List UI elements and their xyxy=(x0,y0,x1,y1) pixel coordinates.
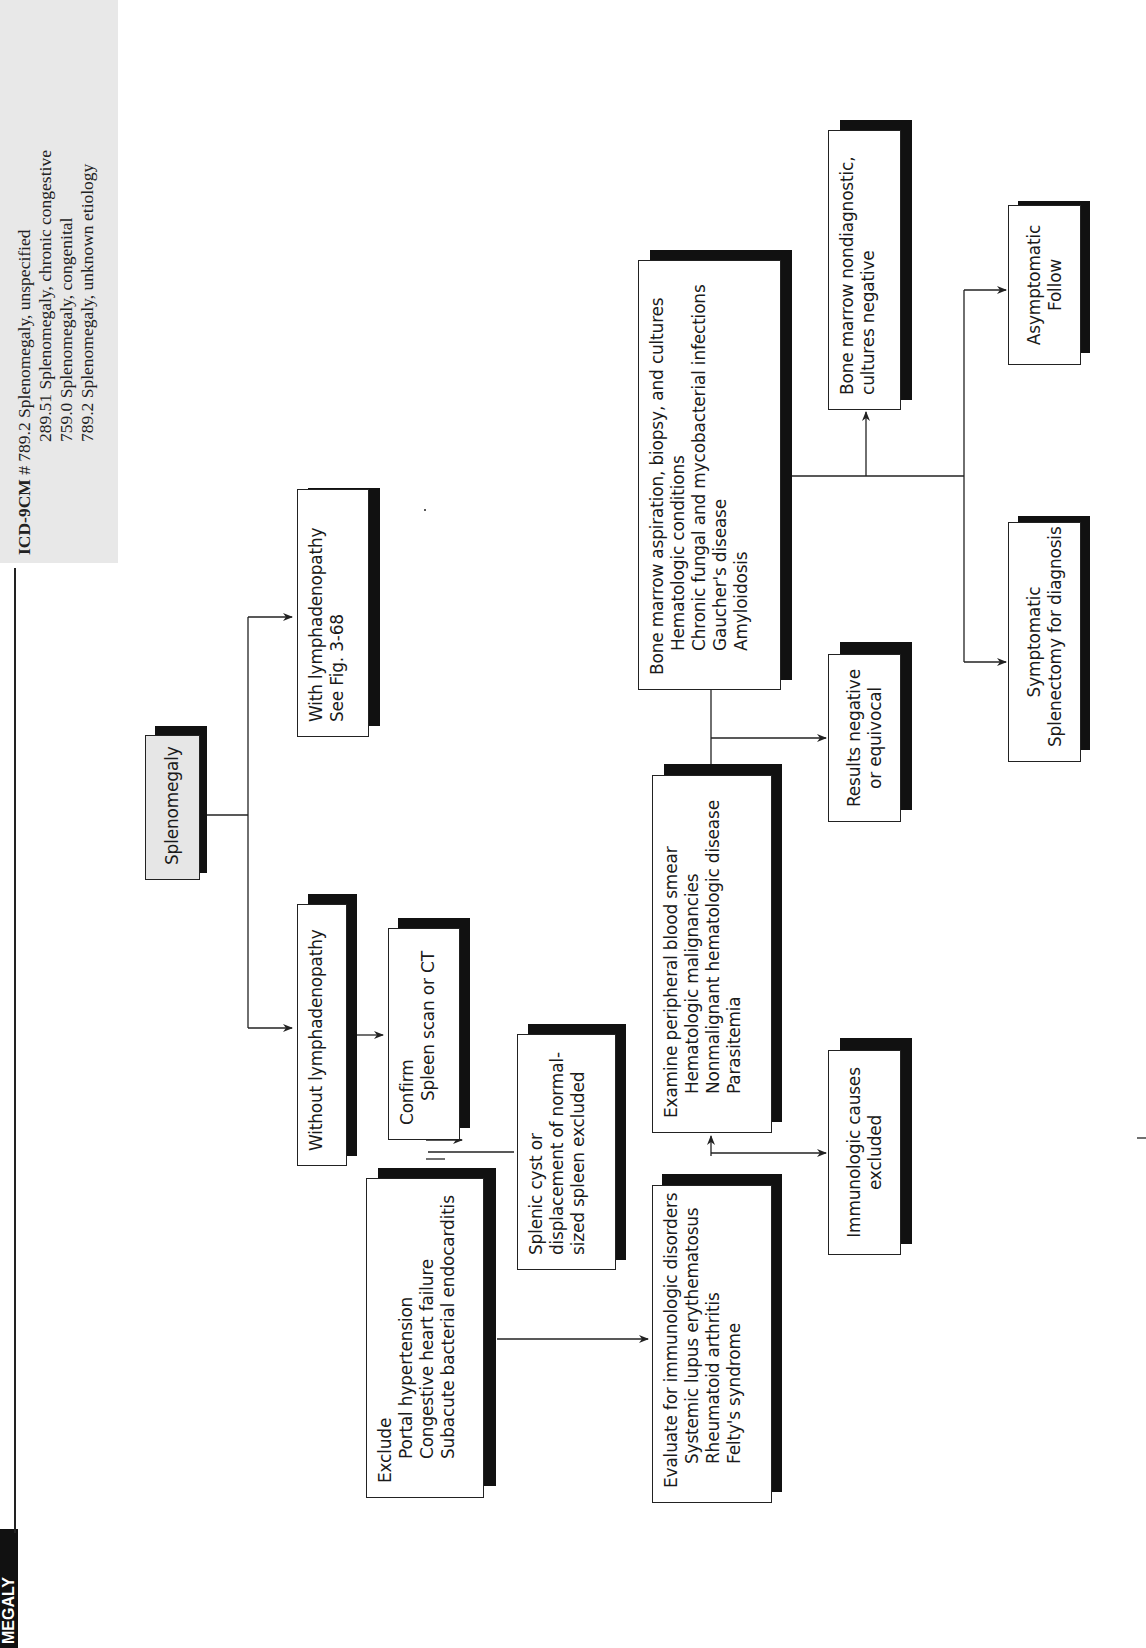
node-confirm[interactable]: Confirm Spleen scan or CT xyxy=(388,928,460,1140)
node-immunologic-excluded[interactable]: Immunologic causes excluded xyxy=(828,1050,901,1255)
node-peripheral-smear[interactable]: Examine peripheral blood smear Hematolog… xyxy=(652,775,772,1133)
exclude-title: Exclude xyxy=(375,1193,396,1483)
cyst-line-3: sized spleen excluded xyxy=(568,1049,589,1255)
immuno-excluded-line-2: excluded xyxy=(865,1065,886,1240)
exclude-item: Congestive heart failure xyxy=(417,1193,438,1483)
smear-item: Nonmalignant hematologic disease xyxy=(703,790,724,1118)
with-lymph-line-2: See Fig. 3-68 xyxy=(327,504,348,722)
without-lymph-line-1: Without lymphadenopathy xyxy=(306,919,327,1151)
node-bone-marrow[interactable]: Bone marrow aspiration, biopsy, and cult… xyxy=(638,260,781,690)
symptomatic-line-2: Splenectomy for diagnosis xyxy=(1045,537,1066,747)
node-exclude[interactable]: Exclude Portal hypertension Congestive h… xyxy=(366,1178,484,1498)
immuno-eval-title: Evaluate for immunologic disorders xyxy=(661,1200,682,1488)
marrow-item: Chronic fungal and mycobacterial infecti… xyxy=(689,275,710,675)
smear-item: Parasitemia xyxy=(724,790,745,1118)
root-node-splenomegaly[interactable]: Splenomegaly xyxy=(145,735,200,880)
asymptomatic-line-1: Asymptomatic xyxy=(1024,220,1045,350)
flowchart-page: MEGALY ICD-9CM # 789.2 Splenomegaly, uns… xyxy=(0,0,1146,1648)
immuno-eval-item: Felty's syndrome xyxy=(724,1200,745,1488)
cyst-line-1: Splenic cyst or xyxy=(526,1049,547,1255)
symptomatic-line-1: Symptomatic xyxy=(1024,537,1045,747)
node-symptomatic[interactable]: Symptomatic Splenectomy for diagnosis xyxy=(1008,522,1081,762)
confirm-line-2: Spleen scan or CT xyxy=(418,943,439,1125)
confirm-line-1: Confirm xyxy=(397,943,418,1125)
asymptomatic-line-2: Follow xyxy=(1045,220,1066,350)
node-evaluate-immunologic[interactable]: Evaluate for immunologic disorders Syste… xyxy=(652,1185,772,1503)
root-label: Splenomegaly xyxy=(162,750,183,865)
immuno-eval-item: Systemic lupus erythematosus xyxy=(682,1200,703,1488)
node-marrow-nondiagnostic[interactable]: Bone marrow nondiagnostic, cultures nega… xyxy=(828,130,901,410)
node-without-lymphadenopathy[interactable]: Without lymphadenopathy xyxy=(297,904,347,1166)
smear-item: Hematologic malignancies xyxy=(682,790,703,1118)
immuno-eval-item: Rheumatoid arthritis xyxy=(703,1200,724,1488)
marrow-title: Bone marrow aspiration, biopsy, and cult… xyxy=(647,275,668,675)
marrow-item: Amyloidosis xyxy=(731,275,752,675)
node-with-lymphadenopathy[interactable]: With lymphadenopathy See Fig. 3-68 xyxy=(297,489,369,737)
results-neg-line-2: or equivocal xyxy=(865,669,886,807)
exclude-item: Subacute bacterial endocarditis xyxy=(438,1193,459,1483)
marrow-neg-line-2: cultures negative xyxy=(858,145,879,395)
results-neg-line-1: Results negative xyxy=(844,669,865,807)
marrow-item: Hematologic conditions xyxy=(668,275,689,675)
node-results-negative[interactable]: Results negative or equivocal xyxy=(828,654,901,822)
exclude-item: Portal hypertension xyxy=(396,1193,417,1483)
immuno-excluded-line-1: Immunologic causes xyxy=(844,1065,865,1240)
node-asymptomatic[interactable]: Asymptomatic Follow xyxy=(1008,205,1081,365)
marrow-neg-line-1: Bone marrow nondiagnostic, xyxy=(837,145,858,395)
marrow-item: Gaucher's disease xyxy=(710,275,731,675)
cyst-line-2: displacement of normal- xyxy=(547,1049,568,1255)
smear-title: Examine peripheral blood smear xyxy=(661,790,682,1118)
node-splenic-cyst[interactable]: Splenic cyst or displacement of normal- … xyxy=(517,1034,616,1270)
with-lymph-line-1: With lymphadenopathy xyxy=(306,504,327,722)
